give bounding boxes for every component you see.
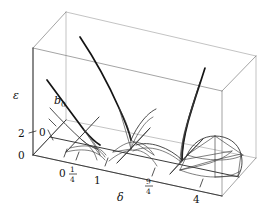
epsilon-tick-label-0: 0: [18, 149, 25, 161]
box-edge-front-top: [33, 48, 222, 91]
cusp3-connector-b: [170, 160, 182, 174]
delta-tick-nine-quarter-numerator: 9: [146, 177, 151, 186]
delta-tick-label-0: 0: [59, 167, 66, 179]
delta-tick-quarter: [76, 152, 79, 160]
cusp1-bold-ridge: [47, 80, 100, 145]
cusp2-connector-b: [131, 140, 134, 142]
base-grid-mid-depth: [50, 137, 239, 177]
b0-axis-label-subscript: 0: [61, 100, 66, 109]
cusp-surface-1: [47, 80, 106, 160]
delta-tick-label-quarter: 1 4: [69, 165, 77, 184]
delta-tick-0: [64, 149, 67, 157]
b0-tick-upper: [49, 119, 56, 126]
figure-root: ε 2 0 b 0 0 δ 0 1 4 1 9 4 4: [0, 0, 280, 216]
cusp1-mid-ridge: [50, 108, 97, 149]
delta-tick-nine-quarter: [152, 168, 155, 176]
b0-axis-line: [33, 120, 66, 155]
cap-diag-d: [215, 154, 241, 160]
b0-tick-label-0: 0: [39, 126, 46, 138]
delta-tick-4: [200, 179, 203, 187]
cusp1-base-arc-front: [66, 150, 105, 160]
base-plane-grid: [50, 117, 239, 177]
bounding-box: [33, 12, 256, 196]
epsilon-tick-2: [29, 131, 36, 133]
delta-tick-nine-quarter-denominator: 4: [146, 187, 151, 196]
box-edge-back-top: [66, 12, 256, 56]
b0-axis-label: b: [54, 94, 61, 107]
delta-tick-quarter-numerator: 1: [70, 165, 75, 174]
epsilon-tick-label-2: 2: [18, 127, 25, 139]
cusp3-bold-ridge: [182, 68, 205, 160]
cusp2-connector-a: [119, 108, 131, 149]
box-edge-top-right-diagonal: [222, 56, 256, 91]
b0-axis-label-group: b 0: [54, 94, 66, 109]
delta-tick-1: [105, 158, 108, 166]
bifurcation-figure: ε 2 0 b 0 0 δ 0 1 4 1 9 4 4: [0, 0, 280, 216]
delta-tick-label-4: 4: [193, 193, 200, 205]
delta-tick-label-1: 1: [94, 174, 101, 186]
cap-diag-b: [187, 136, 215, 155]
delta-tick-quarter-denominator: 4: [70, 175, 75, 184]
epsilon-axis-label: ε: [13, 89, 19, 102]
delta-tick-label-nine-quarter: 9 4: [145, 177, 153, 196]
box-edge-top-left-diagonal: [33, 12, 66, 48]
delta-axis-label: δ: [117, 191, 124, 204]
